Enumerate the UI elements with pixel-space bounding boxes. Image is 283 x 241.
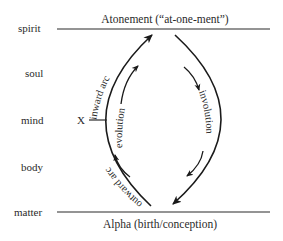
arc-diagram: Atonement (“at-one-ment”) spirit soul mi… bbox=[0, 0, 283, 241]
evolution-label: evolution bbox=[113, 106, 127, 148]
top-caption: Atonement (“at-one-ment”) bbox=[101, 13, 229, 26]
level-label-spirit: spirit bbox=[18, 22, 41, 34]
inward-arc-label: inward arc bbox=[87, 73, 112, 120]
x-marker-label: X bbox=[77, 114, 85, 126]
involution-lower-arrow bbox=[187, 151, 203, 176]
involution-label: involution bbox=[197, 89, 215, 135]
bottom-caption: Alpha (birth/conception) bbox=[103, 218, 217, 231]
level-label-soul: soul bbox=[25, 67, 43, 79]
level-label-mind: mind bbox=[21, 114, 44, 126]
involution-upper-arrow bbox=[184, 67, 199, 90]
level-label-body: body bbox=[21, 161, 44, 173]
outer-left-arc-arrow bbox=[106, 35, 152, 206]
level-label-matter: matter bbox=[14, 206, 42, 218]
evolution-upper-arrow bbox=[121, 66, 138, 104]
outer-right-arc-arrow bbox=[173, 35, 221, 204]
